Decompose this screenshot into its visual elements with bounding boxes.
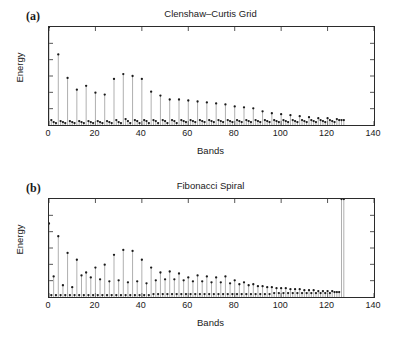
- xtick-label: 40: [136, 128, 146, 138]
- xtick-label: 140: [365, 128, 380, 138]
- xtick-label: 0: [45, 128, 50, 138]
- panel-b: (b) Fibonacci Spiral 020406080100120140 …: [0, 172, 404, 344]
- panel-b-stem-plot: [49, 199, 374, 297]
- panel-a-stem-plot: [49, 27, 374, 125]
- panel-a-plot-area: [48, 26, 375, 126]
- xtick-label: 40: [136, 300, 146, 310]
- figure-container: (a) Clenshaw–Curtis Grid 020406080100120…: [0, 0, 404, 345]
- xtick-label: 100: [273, 128, 288, 138]
- panel-b-xaxis-title: Bands: [48, 317, 373, 328]
- panel-b-plot-area: [48, 198, 375, 298]
- xtick-label: 20: [89, 128, 99, 138]
- xtick-label: 0: [45, 300, 50, 310]
- xtick-label: 100: [273, 300, 288, 310]
- xtick-label: 60: [182, 128, 192, 138]
- panel-b-xtick-labels: 020406080100120140: [48, 300, 373, 314]
- xtick-label: 120: [319, 300, 334, 310]
- xtick-label: 80: [229, 300, 239, 310]
- xtick-label: 80: [229, 128, 239, 138]
- stem-series: [49, 199, 345, 297]
- panel-b-yaxis-title: Energy: [14, 205, 25, 275]
- xtick-label: 20: [89, 300, 99, 310]
- panel-b-letter: (b): [26, 181, 41, 196]
- panel-b-title: Fibonacci Spiral: [48, 180, 373, 191]
- panel-a: (a) Clenshaw–Curtis Grid 020406080100120…: [0, 0, 404, 172]
- panel-a-xaxis-title: Bands: [48, 145, 373, 156]
- xtick-label: 120: [319, 128, 334, 138]
- xtick-label: 140: [365, 300, 380, 310]
- panel-a-letter: (a): [26, 9, 40, 24]
- panel-a-yaxis-title: Energy: [14, 33, 25, 103]
- panel-a-title: Clenshaw–Curtis Grid: [48, 8, 373, 19]
- xtick-label: 60: [182, 300, 192, 310]
- stem-series: [49, 27, 345, 125]
- panel-a-xtick-labels: 020406080100120140: [48, 128, 373, 142]
